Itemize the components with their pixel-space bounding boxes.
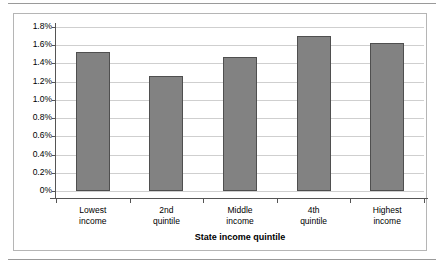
x-axis-tick: [203, 198, 204, 203]
bar[interactable]: [223, 57, 257, 191]
chart-figure: 1.8%1.6%1.4%1.2%1.0%0.8%0.6%0.4%0.2%0% L…: [0, 0, 439, 271]
x-axis-tick: [130, 198, 131, 203]
y-axis-tick-label: 1.2%: [10, 77, 52, 86]
y-axis-tick-label: 0%: [10, 186, 52, 195]
bar[interactable]: [370, 43, 404, 191]
bar-series: [56, 27, 424, 198]
bottom-divider-rule: [8, 259, 436, 260]
x-axis-tick: [424, 198, 425, 203]
y-axis-tick-label: 0.4%: [10, 150, 52, 159]
bar-slot: [350, 27, 424, 198]
y-axis-tick-label: 1.4%: [10, 58, 52, 67]
x-axis-tick-label-line: Highest: [344, 205, 430, 216]
x-axis-tick: [56, 198, 57, 203]
x-axis-tick-label-line: income: [344, 216, 430, 227]
y-axis-tick-label: 1.0%: [10, 95, 52, 104]
bar[interactable]: [149, 76, 183, 191]
y-axis-tick-labels: 1.8%1.6%1.4%1.2%1.0%0.8%0.6%0.4%0.2%0%: [8, 0, 52, 271]
x-axis-title: State income quintile: [56, 232, 424, 242]
bar[interactable]: [297, 36, 331, 191]
bar[interactable]: [76, 52, 110, 191]
x-axis-tick: [350, 198, 351, 203]
top-divider-rule: [8, 3, 436, 4]
y-axis-tick-label: 1.8%: [10, 22, 52, 31]
bar-slot: [130, 27, 204, 198]
y-axis-tick-label: 0.6%: [10, 131, 52, 140]
y-axis-tick-label: 0.8%: [10, 113, 52, 122]
x-axis-line: [50, 198, 428, 199]
y-axis-tick-label: 0.2%: [10, 168, 52, 177]
x-axis-tick-label: Highestincome: [344, 205, 430, 227]
x-axis-tick: [277, 198, 278, 203]
y-axis-tick-label: 1.6%: [10, 40, 52, 49]
bar-slot: [203, 27, 277, 198]
bar-slot: [277, 27, 351, 198]
bar-slot: [56, 27, 130, 198]
